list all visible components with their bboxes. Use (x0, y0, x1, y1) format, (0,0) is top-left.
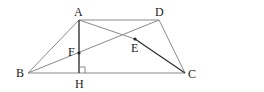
segment-AE (79, 20, 135, 39)
label-H: H (75, 77, 84, 91)
label-B: B (16, 66, 24, 80)
segment-DC (159, 20, 185, 73)
segment-BD (28, 20, 159, 73)
segment-EC (135, 39, 185, 73)
label-C: C (188, 67, 196, 81)
point-F (77, 51, 80, 54)
label-A: A (74, 5, 83, 19)
right-angle-mark (79, 67, 85, 73)
label-E: E (131, 41, 138, 55)
label-D: D (155, 5, 164, 19)
geometry-diagram: A D B C E F H (0, 0, 264, 92)
label-F: F (68, 45, 75, 59)
